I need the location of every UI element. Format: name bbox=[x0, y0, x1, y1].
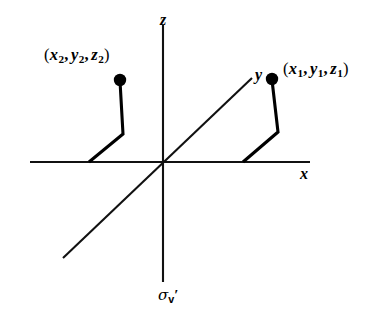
y-var-1: y bbox=[310, 59, 318, 78]
comma-1-1: , bbox=[303, 59, 308, 78]
point-marker-1 bbox=[266, 73, 278, 85]
z-var-1: z bbox=[330, 59, 337, 78]
coordinate-label-point2: (x2, y2, z2) bbox=[44, 47, 110, 65]
z-var-2: z bbox=[91, 45, 98, 64]
y-axis-label: y bbox=[255, 67, 262, 83]
bond-polyline-point2 bbox=[89, 81, 123, 162]
coordinate-label-point1: (x1, y1, z1) bbox=[283, 61, 349, 79]
y-axis-line bbox=[63, 78, 252, 258]
paren-close-2: ) bbox=[104, 45, 110, 64]
x-axis-label: x bbox=[300, 166, 308, 182]
comma-2-1: , bbox=[324, 59, 329, 78]
x-var-1: x bbox=[289, 59, 297, 78]
comma-2-2: , bbox=[85, 45, 90, 64]
paren-close-1: ) bbox=[343, 59, 349, 78]
figure-root: (x2, y2, z2) (x1, y1, z1) z x y σv′ bbox=[0, 0, 389, 326]
sigma-symbol: σ bbox=[158, 286, 168, 304]
bond-polyline-point1 bbox=[243, 80, 278, 162]
comma-1-2: , bbox=[64, 45, 69, 64]
point-marker-2 bbox=[114, 74, 126, 86]
y-var-2: y bbox=[71, 45, 79, 64]
sigma-v-prime-label: σv′ bbox=[158, 288, 178, 305]
x-var-2: x bbox=[50, 45, 58, 64]
prime-mark: ′ bbox=[174, 287, 178, 303]
z-axis-label: z bbox=[160, 12, 166, 28]
